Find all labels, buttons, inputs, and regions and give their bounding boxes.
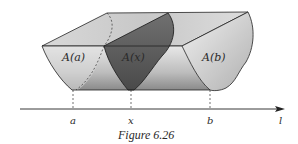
tick-x: x bbox=[128, 115, 134, 126]
axis-name-l: l bbox=[279, 115, 282, 126]
label-A-b: A(b) bbox=[201, 51, 226, 64]
tick-a: a bbox=[70, 115, 76, 126]
tick-b: b bbox=[207, 115, 213, 126]
label-A-x: A(x) bbox=[121, 51, 145, 64]
figure-caption: Figure 6.26 bbox=[117, 128, 174, 142]
figure-6-26: A(a) A(x) A(b) a x b l Figure 6.26 bbox=[0, 0, 298, 144]
label-A-a: A(a) bbox=[61, 51, 85, 64]
